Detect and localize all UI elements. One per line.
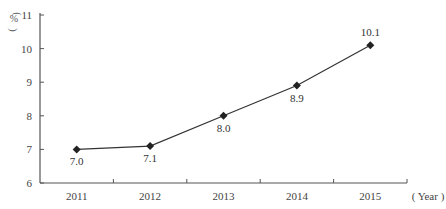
data-label: 8.0 — [217, 122, 231, 134]
line-chart: ( % ) 67891011 20112012201320142015 7.07… — [0, 0, 446, 209]
y-tick-label: 10 — [21, 43, 33, 55]
diamond-marker-icon — [366, 41, 374, 49]
x-tick-label: 2011 — [66, 190, 88, 202]
x-tick-label: 2013 — [213, 190, 236, 202]
data-label: 7.0 — [70, 155, 84, 167]
diamond-marker-icon — [293, 82, 301, 90]
y-tick-label: 7 — [27, 143, 33, 155]
data-series: 7.07.18.08.910.1 — [70, 26, 380, 167]
data-label: 10.1 — [361, 26, 380, 38]
y-tick-label: 11 — [21, 9, 32, 21]
x-tick-label: 2015 — [359, 190, 382, 202]
x-axis: 20112012201320142015 — [40, 179, 407, 202]
diamond-marker-icon — [220, 112, 228, 120]
x-tick-label: 2012 — [139, 190, 161, 202]
y-tick-label: 6 — [27, 177, 33, 189]
diamond-marker-icon — [73, 145, 81, 153]
data-label: 8.9 — [290, 92, 304, 104]
diamond-marker-icon — [146, 142, 154, 150]
svg-text:): ) — [7, 28, 19, 31]
x-axis-title: ( Year ) — [412, 190, 445, 203]
y-tick-label: 9 — [27, 76, 33, 88]
y-tick-label: 8 — [27, 110, 33, 122]
percent-unit: % — [10, 13, 18, 24]
y-axis: 67891011 — [21, 9, 44, 189]
x-tick-label: 2014 — [286, 190, 309, 202]
data-label: 7.1 — [143, 152, 157, 164]
